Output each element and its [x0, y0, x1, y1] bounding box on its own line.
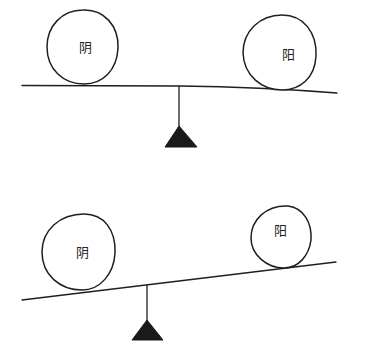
yin-weight-balanced: 阴	[47, 10, 118, 84]
circle-icon	[243, 15, 316, 90]
yang-weight-unbalanced: 阳	[251, 206, 311, 268]
balance-scale-balanced: 阴 阳	[22, 10, 337, 147]
yang-label: 阳	[274, 223, 287, 238]
fulcrum-triangle-icon	[165, 126, 197, 147]
yang-weight-balanced: 阳	[243, 15, 316, 90]
balance-scale-unbalanced: 阴 阳	[22, 206, 336, 340]
fulcrum-triangle-icon	[132, 320, 163, 340]
yin-label: 阴	[76, 245, 89, 260]
yin-label: 阴	[79, 40, 92, 55]
yang-label: 阳	[282, 47, 295, 62]
yin-weight-unbalanced: 阴	[42, 214, 115, 290]
yin-yang-balance-diagram: 阴 阳 阴 阳	[0, 0, 369, 361]
